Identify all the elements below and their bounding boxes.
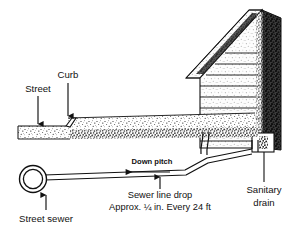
label-street: Street (25, 83, 51, 94)
sanitary-drain-opening (259, 136, 268, 149)
label-sewer-line-spec: Approx. ¼ in. Every 24 ft (109, 202, 211, 212)
label-down-pitch: Down pitch (132, 157, 173, 166)
label-curb: Curb (58, 69, 79, 80)
street-sewer-inner-ring (23, 169, 42, 188)
sewer-line-diagram: Street Curb Down pitch Sewer line drop A… (0, 0, 299, 237)
street-slab (18, 126, 70, 139)
house-side-shaded (262, 10, 281, 150)
label-street-sewer: Street sewer (19, 213, 74, 224)
label-sewer-line-drop: Sewer line drop (128, 190, 193, 200)
label-sanitary-drain-line2: drain (253, 197, 274, 208)
label-sanitary-drain-line1: Sanitary (246, 184, 281, 195)
